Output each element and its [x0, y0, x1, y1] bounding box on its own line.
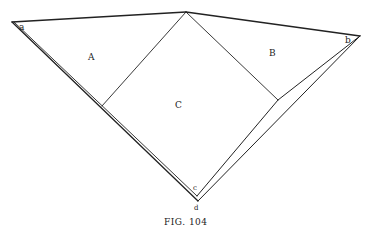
- label-b: b: [345, 35, 351, 45]
- label-c: c: [193, 184, 197, 192]
- label-d: d: [194, 204, 199, 212]
- label-a: a: [19, 22, 25, 32]
- figure-caption: FIG. 104: [164, 217, 208, 227]
- edge-top-left-corner: [102, 12, 186, 106]
- edge-a-c-inner: [14, 22, 197, 196]
- edge-b-d-outer: [198, 36, 360, 201]
- fig-104-diagram: a b A B C c d FIG. 104: [0, 0, 372, 239]
- label-B: B: [269, 48, 276, 58]
- edge-a-d-outer: [12, 22, 198, 201]
- edge-a-top: [12, 12, 186, 22]
- edge-b-right-corner-c: [197, 36, 360, 196]
- edge-top-b: [186, 12, 360, 36]
- label-C: C: [175, 100, 182, 110]
- label-A: A: [87, 52, 95, 62]
- edge-top-right-corner: [186, 12, 278, 100]
